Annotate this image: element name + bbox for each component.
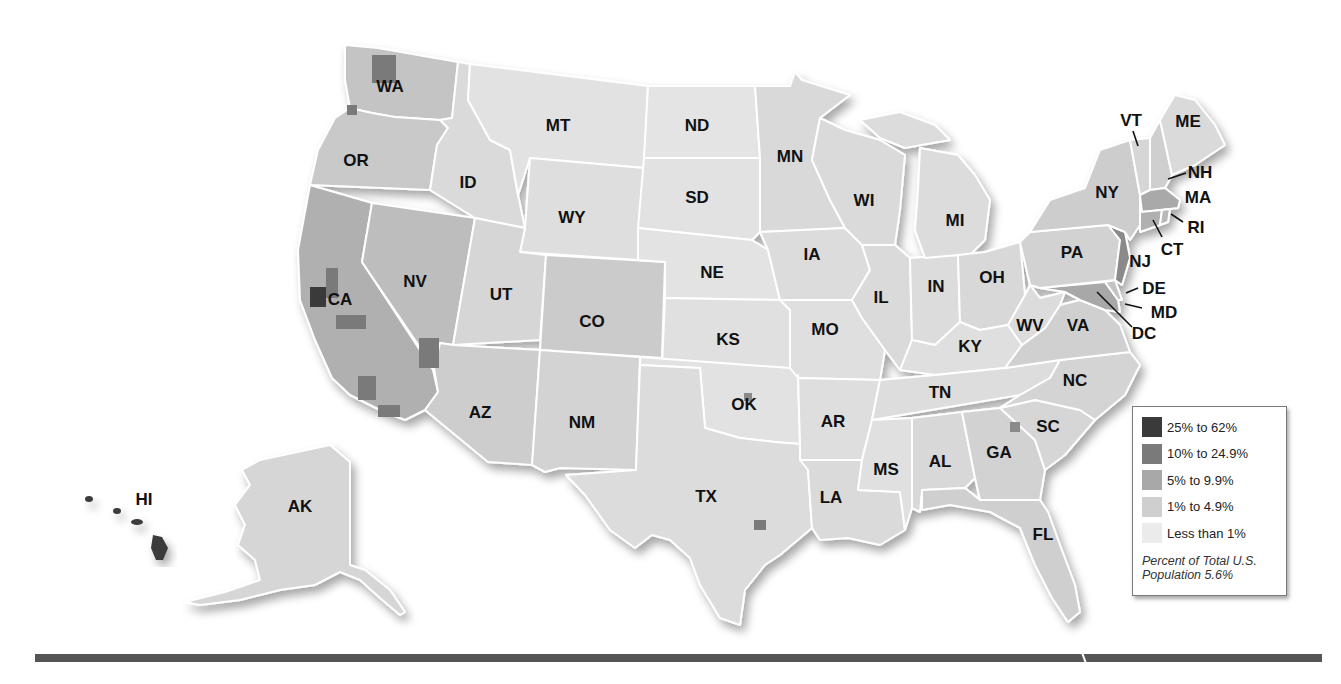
- state-label-ak: AK: [288, 497, 313, 516]
- legend-row-25-62: 25% to 62%: [1142, 414, 1286, 441]
- legend-swatch: [1142, 417, 1162, 437]
- state-label-nv: NV: [403, 272, 427, 291]
- legend-swatch: [1142, 497, 1162, 517]
- state-label-de: DE: [1142, 279, 1166, 298]
- state-label-mn: MN: [777, 147, 803, 166]
- legend-row-lt1: Less than 1%: [1142, 520, 1286, 547]
- legend-note-line2: Population 5.6%: [1142, 568, 1286, 582]
- legend-label: 10% to 24.9%: [1167, 446, 1248, 461]
- state-label-md: MD: [1151, 303, 1177, 322]
- state-label-id: ID: [460, 173, 477, 192]
- state-label-mi: MI: [946, 211, 965, 230]
- state-ct: [1140, 210, 1162, 232]
- state-label-nd: ND: [685, 116, 710, 135]
- legend-label: Less than 1%: [1167, 526, 1246, 541]
- hawaii: [85, 496, 168, 560]
- state-label-wv: WV: [1016, 316, 1044, 335]
- state-ny: [1030, 140, 1140, 240]
- state-label-ms: MS: [873, 460, 899, 479]
- state-label-fl: FL: [1033, 525, 1054, 544]
- legend-label: 1% to 4.9%: [1167, 499, 1234, 514]
- state-label-in: IN: [928, 277, 945, 296]
- state-label-wi: WI: [854, 191, 875, 210]
- hi-island-oahu: [113, 508, 121, 514]
- state-label-ks: KS: [716, 330, 740, 349]
- state-ak: [185, 445, 405, 615]
- state-label-ma: MA: [1185, 188, 1211, 207]
- state-label-ca: CA: [328, 290, 353, 309]
- state-label-ne: NE: [700, 263, 724, 282]
- state-label-la: LA: [820, 488, 843, 507]
- state-label-ut: UT: [490, 285, 513, 304]
- bottom-divider-bar: [35, 654, 1322, 662]
- legend-label: 5% to 9.9%: [1167, 473, 1234, 488]
- state-label-va: VA: [1067, 316, 1089, 335]
- alaska: [185, 445, 405, 615]
- legend-note-line1: Percent of Total U.S.: [1142, 554, 1286, 568]
- state-label-sc: SC: [1036, 417, 1060, 436]
- state-or: [310, 108, 448, 190]
- legend-row-1-49: 1% to 4.9%: [1142, 494, 1286, 521]
- state-label-ny: NY: [1095, 183, 1119, 202]
- state-label-ct: CT: [1161, 240, 1184, 259]
- state-label-dc: DC: [1132, 324, 1157, 343]
- state-label-tn: TN: [929, 383, 952, 402]
- state-label-co: CO: [579, 312, 605, 331]
- state-ia: [760, 228, 870, 300]
- legend-row-10-249: 10% to 24.9%: [1142, 441, 1286, 468]
- legend-note: Percent of Total U.S. Population 5.6%: [1142, 554, 1286, 582]
- legend-swatch: [1142, 470, 1162, 490]
- legend-swatch: [1142, 444, 1162, 464]
- legend-swatch: [1142, 523, 1162, 543]
- state-nm: [532, 350, 640, 472]
- state-label-al: AL: [929, 452, 952, 471]
- hi-island-big-island: [151, 535, 168, 560]
- legend: 25% to 62% 10% to 24.9% 5% to 9.9% 1% to…: [1132, 406, 1287, 596]
- state-label-nj: NJ: [1129, 252, 1151, 271]
- state-label-mo: MO: [811, 320, 838, 339]
- state-label-ok: OK: [731, 395, 757, 414]
- state-label-wa: WA: [376, 77, 403, 96]
- state-label-ky: KY: [958, 337, 982, 356]
- state-label-pa: PA: [1061, 243, 1083, 262]
- legend-row-5-99: 5% to 9.9%: [1142, 467, 1286, 494]
- state-label-az: AZ: [469, 403, 492, 422]
- hi-island-kauai: [85, 496, 93, 502]
- state-label-ri: RI: [1188, 218, 1205, 237]
- contiguous-us: [298, 45, 1225, 625]
- hi-island-maui: [131, 519, 143, 525]
- state-ri: [1160, 209, 1170, 225]
- state-co: [540, 255, 665, 358]
- state-ma: [1140, 188, 1180, 212]
- state-label-nc: NC: [1063, 371, 1088, 390]
- state-label-ia: IA: [804, 245, 821, 264]
- state-label-sd: SD: [685, 188, 709, 207]
- state-fl: [922, 488, 1080, 622]
- state-label-mt: MT: [546, 116, 571, 135]
- state-label-hi: HI: [136, 490, 153, 509]
- state-label-ar: AR: [821, 412, 846, 431]
- state-label-or: OR: [343, 151, 369, 170]
- legend-label: 25% to 62%: [1167, 420, 1237, 435]
- state-label-ga: GA: [986, 443, 1012, 462]
- state-label-oh: OH: [979, 268, 1005, 287]
- state-label-nm: NM: [569, 413, 595, 432]
- state-label-wy: WY: [558, 208, 586, 227]
- state-label-vt: VT: [1120, 111, 1142, 130]
- state-label-tx: TX: [695, 487, 717, 506]
- state-label-me: ME: [1175, 112, 1201, 131]
- state-label-nh: NH: [1188, 163, 1213, 182]
- state-label-il: IL: [873, 288, 888, 307]
